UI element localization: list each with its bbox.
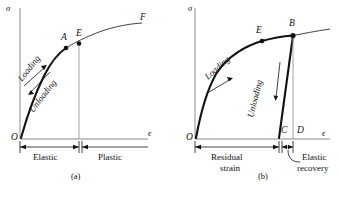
panel-a-caption: (a) xyxy=(71,171,81,181)
panel-b-y-axis-label: σ xyxy=(188,3,193,13)
panel-b-unloading-arrow xyxy=(274,62,280,101)
figure-container: σ ϵ O A E F Loading Unloading xyxy=(0,0,339,202)
panel-a-y-axis-label: σ xyxy=(6,3,11,13)
panel-a-x-axis-label: ϵ xyxy=(148,128,152,138)
panel-a: σ ϵ O A E F Loading Unloading xyxy=(6,3,152,181)
panel-b-residual-strain-label-line2: strain xyxy=(220,163,240,173)
panel-b-loading-curve xyxy=(196,36,293,139)
panel-a-point-f-label: F xyxy=(139,12,146,22)
panel-b-point-c-label: C xyxy=(281,125,288,135)
panel-b-point-b-label: B xyxy=(289,18,295,28)
panel-b-plastic-curve xyxy=(293,29,330,36)
panel-a-point-e-marker xyxy=(77,41,82,46)
panel-b-x-axis-label: ϵ xyxy=(322,128,326,138)
panel-b-residual-strain-label-line1: Residual xyxy=(211,152,243,162)
panel-a-origin-label: O xyxy=(11,132,18,142)
panel-b: σ ϵ O E B C D Loading Unloading xyxy=(186,3,330,181)
panel-b-caption: (b) xyxy=(258,171,268,181)
panel-b-elastic-recovery-label-line1: Elastic xyxy=(302,152,327,162)
panel-a-elastic-label: Elastic xyxy=(33,152,58,162)
stress-strain-figure: σ ϵ O A E F Loading Unloading xyxy=(0,0,339,202)
panel-a-point-a-marker xyxy=(64,46,69,51)
panel-a-unloading-label: Unloading xyxy=(27,77,59,114)
panel-a-point-a-label: A xyxy=(60,32,67,42)
panel-a-point-e-label: E xyxy=(75,28,82,38)
panel-b-origin-label: O xyxy=(186,132,193,142)
panel-a-loading-label: Loading xyxy=(15,53,42,84)
panel-b-point-b-marker xyxy=(290,33,295,38)
panel-b-elastic-recovery-label-line2: recovery xyxy=(297,163,329,173)
panel-b-point-d-label: D xyxy=(296,125,304,135)
panel-a-plastic-label: Plastic xyxy=(98,152,122,162)
panel-b-elastic-recovery-leader xyxy=(288,150,300,162)
panel-b-unloading-label: Unloading xyxy=(245,78,264,118)
panel-b-point-e-marker xyxy=(260,39,265,44)
panel-b-elastic-recovery-dimension xyxy=(282,141,293,153)
panel-b-point-e-label: E xyxy=(255,25,262,35)
panel-b-unloading-line xyxy=(279,36,293,139)
